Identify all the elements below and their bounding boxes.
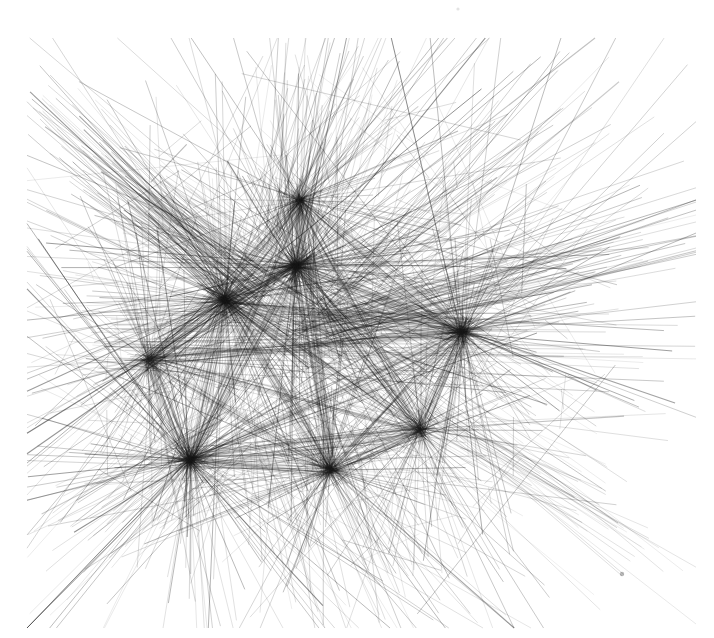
dot-bottom-right bbox=[620, 572, 624, 576]
speck-top bbox=[456, 7, 459, 10]
artwork-canvas-container bbox=[0, 0, 714, 638]
line-art-svg bbox=[0, 0, 714, 638]
